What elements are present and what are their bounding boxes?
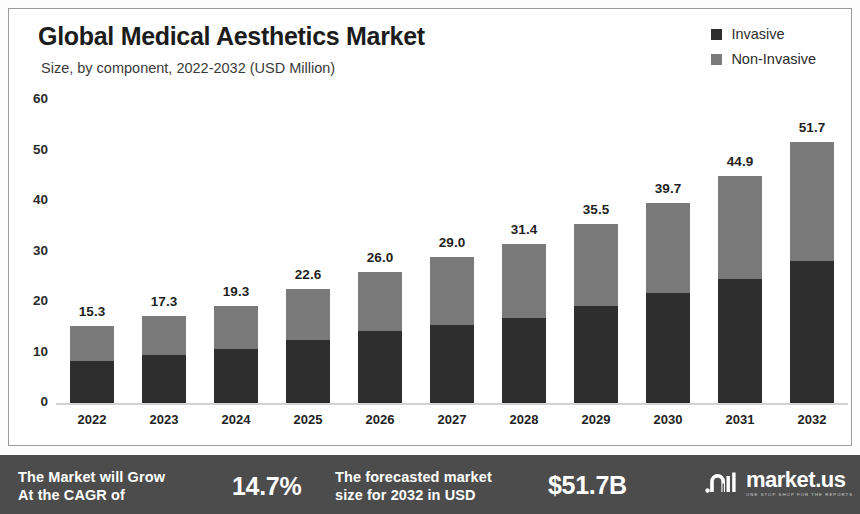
bar-value-label: 51.7: [776, 120, 848, 135]
bar-segment-invasive[interactable]: [574, 306, 618, 403]
bar-value-label: 31.4: [488, 222, 560, 237]
y-axis-tick-label: 40: [18, 192, 48, 207]
y-axis-tick-label: 30: [18, 243, 48, 258]
bar-value-label: 15.3: [56, 304, 128, 319]
logo-wordmark: market.us: [746, 469, 853, 491]
forecast-caption-line2: size for 2032 in USD: [335, 487, 476, 503]
bar-segment-invasive[interactable]: [646, 293, 690, 403]
x-axis-tick-label: 2025: [286, 412, 330, 434]
x-axis-tick-label: 2031: [718, 412, 762, 434]
bar-series-group: 15.317.319.322.626.029.031.435.539.744.9…: [56, 96, 848, 403]
y-axis-tick-label: 20: [18, 293, 48, 308]
bar-segment-invasive[interactable]: [70, 361, 114, 403]
bar-column[interactable]: 22.6: [286, 96, 330, 403]
forecast-caption-line1: The forecasted market: [335, 469, 492, 485]
bar-value-label: 19.3: [200, 284, 272, 299]
bar-column[interactable]: 31.4: [502, 96, 546, 403]
x-axis-tick-label: 2026: [358, 412, 402, 434]
cagr-value: 14.7%: [232, 472, 301, 501]
x-axis-tick-label: 2024: [214, 412, 258, 434]
bar-column[interactable]: 15.3: [70, 96, 114, 403]
bar-segment-non-invasive[interactable]: [718, 176, 762, 279]
bar-segment-invasive[interactable]: [358, 331, 402, 403]
x-axis-tick-label: 2028: [502, 412, 546, 434]
x-axis-tick-label: 2022: [70, 412, 114, 434]
bar-segment-non-invasive[interactable]: [214, 306, 258, 350]
bar-column[interactable]: 51.7: [790, 96, 834, 403]
summary-banner: The Market will Grow At the CAGR of 14.7…: [0, 455, 860, 514]
y-axis-tick-label: 0: [18, 394, 48, 409]
bar-value-label: 26.0: [344, 250, 416, 265]
logo-tagline: ONE STOP SHOP FOR THE REPORTS: [746, 493, 853, 497]
market-us-logomark-icon: [705, 470, 739, 496]
cagr-caption-line1: The Market will Grow: [18, 469, 165, 485]
plot-area: 6050403020100 15.317.319.322.626.029.031…: [0, 0, 860, 446]
bar-value-label: 17.3: [128, 294, 200, 309]
y-axis-tick-label: 50: [18, 142, 48, 157]
bar-column[interactable]: 35.5: [574, 96, 618, 403]
bar-segment-invasive[interactable]: [502, 318, 546, 403]
bar-segment-invasive[interactable]: [790, 261, 834, 403]
y-axis-tick-label: 60: [18, 91, 48, 106]
bar-column[interactable]: 39.7: [646, 96, 690, 403]
bar-segment-non-invasive[interactable]: [646, 203, 690, 294]
bar-column[interactable]: 29.0: [430, 96, 474, 403]
bar-segment-invasive[interactable]: [214, 349, 258, 403]
x-axis: 2022202320242025202620272028202920302031…: [56, 412, 848, 434]
axis-baseline: [56, 403, 848, 405]
x-axis-tick-label: 2030: [646, 412, 690, 434]
bar-segment-non-invasive[interactable]: [70, 326, 114, 361]
x-axis-tick-label: 2027: [430, 412, 474, 434]
bar-segment-invasive[interactable]: [718, 279, 762, 403]
chart-card: Global Medical Aesthetics Market Size, b…: [0, 0, 860, 514]
bar-segment-non-invasive[interactable]: [574, 224, 618, 306]
cagr-caption-line2: At the CAGR of: [18, 487, 125, 503]
bar-column[interactable]: 44.9: [718, 96, 762, 403]
bar-segment-non-invasive[interactable]: [790, 142, 834, 261]
bar-value-label: 44.9: [704, 154, 776, 169]
y-axis-tick-label: 10: [18, 344, 48, 359]
bar-segment-invasive[interactable]: [142, 355, 186, 403]
market-us-logo[interactable]: market.us ONE STOP SHOP FOR THE REPORTS: [705, 469, 853, 497]
bar-segment-non-invasive[interactable]: [502, 244, 546, 317]
bar-value-label: 39.7: [632, 181, 704, 196]
x-axis-tick-label: 2032: [790, 412, 834, 434]
bar-column[interactable]: 19.3: [214, 96, 258, 403]
bar-segment-non-invasive[interactable]: [142, 316, 186, 355]
bar-column[interactable]: 17.3: [142, 96, 186, 403]
bar-segment-invasive[interactable]: [286, 340, 330, 403]
x-axis-tick-label: 2029: [574, 412, 618, 434]
forecast-caption: The forecasted market size for 2032 in U…: [335, 468, 492, 504]
bar-value-label: 29.0: [416, 235, 488, 250]
bar-value-label: 35.5: [560, 202, 632, 217]
bar-column[interactable]: 26.0: [358, 96, 402, 403]
bar-segment-non-invasive[interactable]: [358, 272, 402, 332]
bar-segment-invasive[interactable]: [430, 325, 474, 403]
forecast-value: $51.7B: [548, 471, 627, 500]
bar-value-label: 22.6: [272, 267, 344, 282]
bar-segment-non-invasive[interactable]: [286, 289, 330, 340]
bar-segment-non-invasive[interactable]: [430, 257, 474, 325]
x-axis-tick-label: 2023: [142, 412, 186, 434]
cagr-caption: The Market will Grow At the CAGR of: [18, 468, 165, 504]
